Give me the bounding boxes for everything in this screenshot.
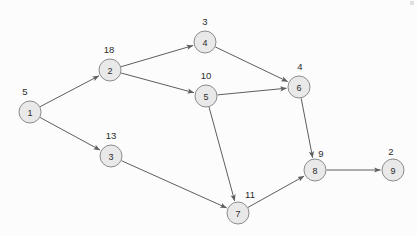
- edge-6-to-8: [301, 98, 312, 157]
- node-8[interactable]: 8: [304, 159, 326, 181]
- node-weight-1: 5: [22, 86, 27, 97]
- node-3[interactable]: 3: [100, 145, 122, 167]
- edge-1-to-3: [40, 117, 100, 150]
- node-4[interactable]: 4: [194, 31, 216, 53]
- node-5[interactable]: 5: [195, 85, 217, 107]
- node-label-8: 8: [312, 166, 317, 176]
- edge-5-to-6: [217, 88, 286, 95]
- edge-1-to-2: [40, 76, 99, 107]
- node-9[interactable]: 9: [382, 159, 404, 181]
- node-label-5: 5: [203, 92, 208, 102]
- node-label-9: 9: [390, 166, 395, 176]
- node-label-6: 6: [296, 83, 301, 93]
- node-weight-3: 13: [106, 130, 117, 141]
- node-label-3: 3: [108, 152, 113, 162]
- node-7[interactable]: 7: [227, 202, 249, 224]
- node-weight-5: 10: [201, 70, 212, 81]
- edge-7-to-8: [248, 176, 304, 207]
- edge-2-to-5: [121, 73, 194, 93]
- node-6[interactable]: 6: [288, 76, 310, 98]
- node-1[interactable]: 1: [19, 101, 41, 123]
- edge-5-to-7: [209, 107, 235, 201]
- nodes-layer: 1521831343510647118992: [19, 16, 404, 224]
- edge-3-to-7: [121, 161, 226, 208]
- node-weight-7: 11: [245, 189, 255, 200]
- node-label-4: 4: [202, 38, 207, 48]
- node-weight-6: 4: [297, 61, 302, 72]
- graph-svg: 1521831343510647118992: [0, 0, 417, 236]
- node-label-1: 1: [27, 108, 32, 118]
- edge-2-to-4: [121, 46, 193, 67]
- edge-4-to-6: [215, 47, 287, 82]
- diagram-canvas: 1521831343510647118992: [0, 0, 417, 236]
- node-2[interactable]: 2: [99, 59, 121, 81]
- node-weight-9: 2: [388, 146, 393, 157]
- node-weight-4: 3: [202, 16, 207, 27]
- node-label-2: 2: [107, 66, 112, 76]
- node-label-7: 7: [235, 209, 240, 219]
- node-weight-2: 18: [104, 44, 115, 55]
- node-weight-8: 9: [318, 148, 323, 159]
